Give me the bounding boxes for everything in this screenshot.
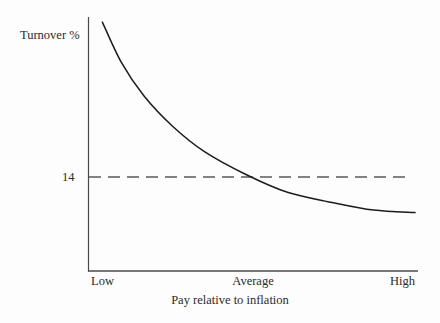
x-tick-label-average: Average (232, 275, 273, 288)
x-axis-title: Pay relative to inflation (171, 294, 289, 307)
curve-main (102, 22, 415, 213)
chart-plot-area (0, 0, 440, 323)
x-tick-label-high: High (390, 275, 415, 288)
x-tick-label-low: Low (91, 275, 114, 288)
y-tick-label-14: 14 (62, 171, 75, 184)
y-axis-label: Turnover % (20, 29, 80, 42)
turnover-pay-chart: Turnover % 14 Low Average High Pay relat… (0, 0, 440, 323)
